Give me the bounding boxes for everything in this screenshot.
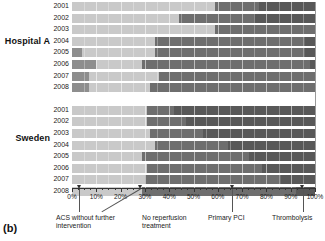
bar-segment bbox=[147, 164, 261, 173]
bar-row: 2007 bbox=[72, 175, 315, 184]
bar-segment bbox=[147, 117, 186, 126]
axis-tick-label: 90% bbox=[284, 193, 297, 200]
bar-segment bbox=[72, 152, 142, 161]
year-label: 2004 bbox=[53, 36, 69, 46]
bar-segment bbox=[72, 2, 215, 11]
year-label: 2005 bbox=[53, 151, 69, 161]
bar-segment bbox=[147, 106, 174, 115]
axis-tick-major bbox=[291, 188, 292, 192]
bar-row: 2001 bbox=[72, 106, 315, 115]
axis-tick-minor bbox=[187, 188, 188, 190]
axis-tick-minor bbox=[248, 188, 249, 190]
stacked-bar bbox=[72, 164, 315, 173]
bar-segment bbox=[142, 152, 249, 161]
axis-tick-minor bbox=[115, 188, 116, 190]
panel-letter-label: (b) bbox=[3, 222, 17, 234]
bar-segment bbox=[72, 60, 96, 69]
axis-tick-major bbox=[266, 188, 267, 192]
annotation-label-acs-without-further-intervention: ACS without further intervention bbox=[56, 214, 130, 230]
axis-tick-label: 100% bbox=[307, 193, 324, 200]
bar-segment bbox=[72, 175, 145, 184]
bar-segment bbox=[186, 117, 315, 126]
axis-tick-label: 40% bbox=[163, 193, 176, 200]
year-label: 2006 bbox=[53, 163, 69, 173]
bar-segment bbox=[179, 14, 254, 23]
axis-tick-minor bbox=[175, 188, 176, 190]
bar-segment bbox=[305, 48, 315, 57]
annotation-label-thrombolysis: Thrombolysis bbox=[272, 214, 324, 222]
bar-segment bbox=[159, 72, 315, 81]
axis-tick-minor bbox=[297, 188, 298, 190]
bar-segment bbox=[155, 48, 306, 57]
axis-tick-minor bbox=[108, 188, 109, 190]
bar-segment bbox=[215, 25, 315, 34]
group-label-sweden: Sweden bbox=[0, 133, 50, 143]
year-label: 2002 bbox=[53, 116, 69, 126]
axis-tick-major bbox=[96, 188, 97, 192]
axis-tick-minor bbox=[127, 188, 128, 190]
stacked-bar bbox=[72, 117, 315, 126]
bar-row: 2001 bbox=[72, 2, 315, 11]
axis-tick-major bbox=[194, 188, 195, 192]
bar-segment bbox=[259, 2, 315, 11]
bar-segment bbox=[96, 60, 142, 69]
bar-segment bbox=[72, 14, 179, 23]
year-label: 2006 bbox=[53, 59, 69, 69]
axis-tick-major bbox=[315, 188, 316, 192]
axis-tick-major bbox=[72, 188, 73, 192]
bar-segment bbox=[72, 37, 155, 46]
year-label: 2007 bbox=[53, 71, 69, 81]
bar-segment bbox=[82, 48, 155, 57]
axis-tick-minor bbox=[102, 188, 103, 190]
bar-segment bbox=[72, 83, 89, 92]
axis-tick-minor bbox=[285, 188, 286, 190]
axis-tick-major bbox=[218, 188, 219, 192]
year-label: 2004 bbox=[53, 140, 69, 150]
axis-tick-label: 30% bbox=[138, 193, 151, 200]
stacked-bar bbox=[72, 106, 315, 115]
annotation-label-no-reperfusion-treatment: No reperfusion treatment bbox=[142, 214, 204, 230]
axis-tick-label: 80% bbox=[260, 193, 273, 200]
stacked-bar bbox=[72, 37, 315, 46]
axis-tick-label: 10% bbox=[90, 193, 103, 200]
axis-tick-minor bbox=[90, 188, 91, 190]
axis-tick-label: 60% bbox=[211, 193, 224, 200]
chart-panel: Hospital A Sweden 2001200220032004200520… bbox=[0, 0, 325, 241]
stacked-bar bbox=[72, 129, 315, 138]
axis-tick-minor bbox=[151, 188, 152, 190]
annotation-leader-line bbox=[232, 189, 233, 212]
axis-tick-minor bbox=[200, 188, 201, 190]
bar-segment bbox=[262, 164, 315, 173]
bar-segment bbox=[72, 72, 89, 81]
bar-row: 2007 bbox=[72, 72, 315, 81]
bar-segment bbox=[72, 129, 150, 138]
axis-tick-label: 50% bbox=[187, 193, 200, 200]
group-label-hospital-a: Hospital A bbox=[0, 36, 50, 46]
bar-segment bbox=[72, 117, 147, 126]
bar-segment bbox=[150, 129, 203, 138]
bar-row: 2002 bbox=[72, 117, 315, 126]
bar-row: 2005 bbox=[72, 152, 315, 161]
year-label: 2005 bbox=[53, 47, 69, 57]
axis-tick-minor bbox=[279, 188, 280, 190]
bar-segment bbox=[305, 37, 315, 46]
year-label: 2007 bbox=[53, 174, 69, 184]
axis-tick-minor bbox=[133, 188, 134, 190]
bar-row: 2004 bbox=[72, 141, 315, 150]
axis-tick-minor bbox=[163, 188, 164, 190]
bar-segment bbox=[249, 152, 315, 161]
axis-tick-major bbox=[242, 188, 243, 192]
bar-segment bbox=[155, 141, 228, 150]
axis-tick-minor bbox=[236, 188, 237, 190]
annotation-label-primary-pci: Primary PCI bbox=[208, 214, 260, 222]
stacked-bar bbox=[72, 25, 315, 34]
axis-tick-minor bbox=[157, 188, 158, 190]
bar-row: 2004 bbox=[72, 37, 315, 46]
plot-area: 2001200220032004200520062007200820012002… bbox=[72, 2, 315, 188]
bar-row: 2008 bbox=[72, 83, 315, 92]
year-label: 2008 bbox=[53, 82, 69, 92]
year-label: 2003 bbox=[53, 24, 69, 34]
year-label: 2001 bbox=[53, 105, 69, 115]
axis-tick-label: 0% bbox=[67, 193, 76, 200]
bar-segment bbox=[72, 141, 155, 150]
